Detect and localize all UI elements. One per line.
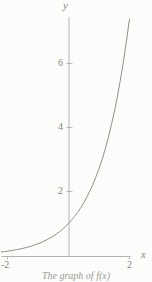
- x-tick-label-neg2: -2: [1, 259, 9, 270]
- figure-caption: The graph of f(x): [0, 270, 152, 282]
- x-tick-label-2: 2: [124, 259, 135, 270]
- y-tick-label-6: 6: [50, 57, 63, 68]
- x-axis-label: x: [141, 248, 146, 260]
- y-axis-label: y: [63, 0, 68, 11]
- y-tick-label-4: 4: [50, 121, 63, 132]
- y-tick-label-2: 2: [50, 185, 63, 196]
- exponential-curve: [1, 19, 129, 252]
